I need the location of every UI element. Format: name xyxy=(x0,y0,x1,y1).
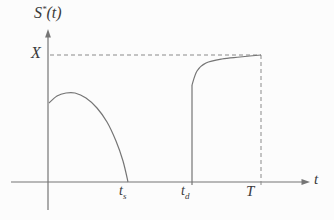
plot-canvas xyxy=(0,0,334,220)
x-level-label: X xyxy=(31,45,41,61)
curve-cycle-2 xyxy=(192,55,261,85)
curve-cycle-1 xyxy=(49,93,128,182)
x-axis-label: t xyxy=(314,172,318,187)
tick-label-td: td xyxy=(181,184,189,198)
x-axis-arrow-icon xyxy=(302,179,311,185)
y-axis-arrow-icon xyxy=(45,29,51,38)
tick-label-td-sub: d xyxy=(185,191,190,201)
tick-label-T: T xyxy=(246,184,254,199)
tick-label-ts-sub: s xyxy=(123,191,127,201)
y-axis-label-args: (t) xyxy=(47,4,62,21)
tick-label-ts: ts xyxy=(119,184,126,198)
y-axis-label-base: S xyxy=(34,4,42,21)
inventory-level-figure: S*(t) X ts td T t xyxy=(0,0,334,220)
y-axis-label: S*(t) xyxy=(34,5,62,21)
